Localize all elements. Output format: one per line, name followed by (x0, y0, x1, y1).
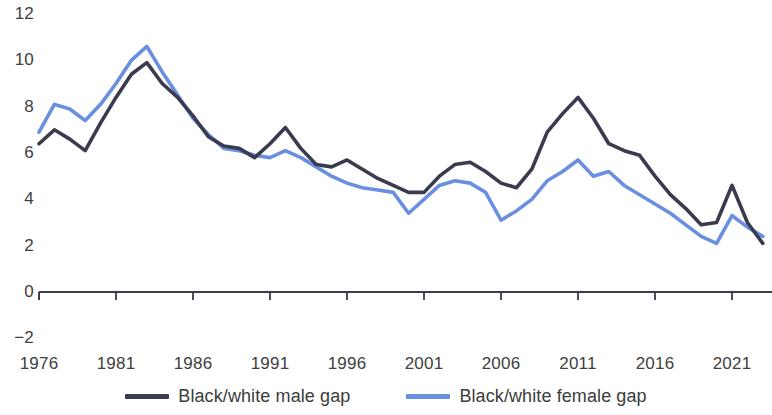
x-axis-ticks (39, 292, 732, 300)
chart-svg (0, 0, 772, 350)
x-axis-tick-label: 1996 (317, 355, 377, 372)
chart-legend: Black/white male gap Black/white female … (0, 386, 772, 407)
legend-label-male: Black/white male gap (178, 386, 350, 407)
y-axis-tick-label: 8 (0, 98, 34, 115)
x-axis-tick-label: 2011 (548, 355, 608, 372)
y-axis-tick-label: 2 (0, 237, 34, 254)
legend-swatch-female (406, 394, 450, 399)
y-axis-tick-label: 10 (0, 51, 34, 68)
x-axis-tick-label: 2021 (702, 355, 762, 372)
plot-area: 121086420−2 (0, 0, 772, 350)
legend-item-female: Black/white female gap (406, 386, 646, 407)
unemployment-gap-line-chart: 121086420−2 1976198119861991199620012006… (0, 0, 772, 415)
y-axis-tick-label: 4 (0, 190, 34, 207)
series-group (39, 46, 763, 243)
legend-label-female: Black/white female gap (459, 386, 646, 407)
x-axis-tick-label: 1976 (9, 355, 69, 372)
y-axis-tick-label: 6 (0, 144, 34, 161)
x-axis-tick-label: 1991 (240, 355, 300, 372)
y-axis-tick-label: −2 (0, 329, 34, 346)
legend-item-male: Black/white male gap (125, 386, 350, 407)
y-axis-tick-label: 0 (0, 283, 34, 300)
legend-swatch-male (125, 394, 169, 399)
x-axis-tick-label: 2006 (471, 355, 531, 372)
series-line-male (39, 63, 763, 244)
x-axis-tick-label: 2016 (625, 355, 685, 372)
x-axis-tick-label: 2001 (394, 355, 454, 372)
axis-group (39, 292, 772, 300)
x-axis-tick-label: 1981 (86, 355, 146, 372)
x-axis-tick-label: 1986 (163, 355, 223, 372)
series-line-female (39, 46, 763, 243)
y-axis-tick-label: 12 (0, 5, 34, 22)
